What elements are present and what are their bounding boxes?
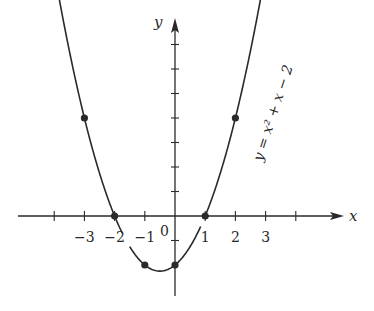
origin-label: 0 [160, 223, 169, 239]
x-tick-label: −3 [74, 229, 95, 245]
data-point [232, 114, 239, 121]
data-point [202, 212, 209, 219]
y-axis-label: y [153, 13, 163, 31]
function-label: y = x² + x − 2 [249, 63, 295, 164]
x-tick-label: 1 [201, 229, 210, 245]
x-tick-label: 2 [231, 229, 240, 245]
x-tick-label: −1 [134, 229, 155, 245]
data-point [111, 212, 118, 219]
x-axis-label: x [349, 207, 358, 225]
curve-left-upper [57, 0, 122, 233]
x-tick-label: 3 [261, 229, 270, 245]
curve-right-upper [205, 0, 268, 216]
data-point [141, 261, 148, 268]
data-point [81, 114, 88, 121]
data-point [171, 261, 178, 268]
parabola-chart: −3−2−1123 x y 0 y = x² + x − 2 [0, 0, 374, 311]
axes: −3−2−1123 [18, 18, 344, 296]
labels: x y 0 y = x² + x − 2 [153, 13, 358, 239]
data-points [81, 114, 239, 268]
